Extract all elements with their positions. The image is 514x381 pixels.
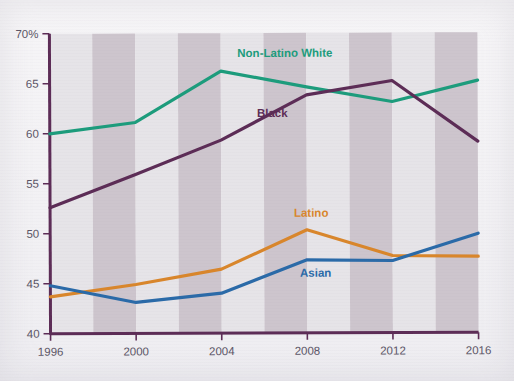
series-label-black: Black (257, 107, 288, 119)
y-tick-label: 70% (15, 28, 38, 40)
background-band (135, 33, 179, 333)
y-tick-label: 55 (26, 178, 39, 190)
x-tick-label: 1996 (38, 346, 64, 358)
line-chart: 40455055606570% 199620002004200820122016… (0, 0, 514, 381)
x-tick-label: 2016 (466, 344, 492, 356)
x-tick-label: 2008 (295, 345, 321, 357)
background-band (263, 33, 307, 333)
background-band (392, 32, 436, 332)
x-axis-ticks: 199620002004200820122016 (38, 332, 492, 358)
background-band (306, 33, 350, 333)
x-tick-label: 2012 (380, 344, 406, 356)
x-tick-label: 2004 (209, 345, 235, 357)
chart-svg: 40455055606570% 199620002004200820122016… (0, 0, 514, 381)
y-tick-label: 40 (27, 328, 40, 340)
y-axis-ticks: 40455055606570% (15, 28, 50, 340)
series-label-latino: Latino (294, 207, 329, 219)
y-tick-label: 60 (26, 128, 39, 140)
series-label-asian: Asian (300, 267, 331, 279)
background-band (435, 32, 479, 332)
x-tick-label: 2000 (123, 345, 149, 357)
y-tick-label: 65 (26, 78, 39, 90)
y-tick-label: 45 (27, 278, 40, 290)
background-band (178, 33, 222, 333)
background-band (349, 32, 393, 332)
series-label-non-latino-white: Non-Latino White (237, 47, 332, 59)
y-tick-label: 50 (26, 228, 39, 240)
x-axis-line (51, 332, 479, 334)
